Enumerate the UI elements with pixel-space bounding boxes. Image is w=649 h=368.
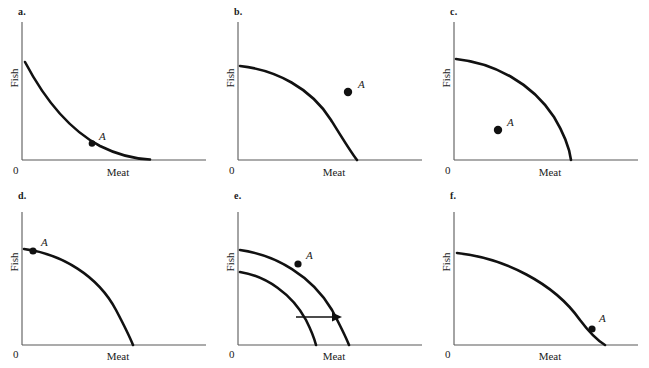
panel-d: d. A Fish Meat 0	[0, 184, 215, 368]
x-axis-label: Meat	[510, 166, 590, 178]
point-a-label: A	[41, 236, 48, 248]
panel-f: f. A Fish Meat 0	[432, 184, 647, 368]
panel-d-plot	[0, 184, 215, 368]
origin-label: 0	[13, 348, 19, 360]
origin-label: 0	[229, 164, 235, 176]
origin-label: 0	[445, 348, 451, 360]
panel-a: a. A Fish Meat 0	[0, 0, 215, 184]
origin-label: 0	[13, 164, 19, 176]
panel-f-plot	[432, 184, 647, 368]
ppf-curve	[25, 62, 150, 160]
y-axis-label: Fish	[224, 56, 236, 100]
point-a-dot	[344, 88, 352, 96]
ppf-curve-original	[240, 272, 316, 345]
point-a-label: A	[599, 312, 606, 324]
panel-b-plot	[216, 0, 431, 184]
panel-a-plot	[0, 0, 215, 184]
ppf-curve	[457, 253, 605, 345]
panel-e: e. A Fish Meat 0	[216, 184, 431, 368]
panel-e-plot	[216, 184, 431, 368]
y-axis-label: Fish	[224, 240, 236, 284]
point-a-label: A	[99, 130, 106, 142]
panel-c: c. A Fish Meat 0	[432, 0, 647, 184]
x-axis-label: Meat	[510, 350, 590, 362]
x-axis-label: Meat	[294, 350, 374, 362]
ppf-curve	[24, 249, 133, 345]
x-axis-label: Meat	[78, 350, 158, 362]
point-a-dot	[588, 325, 595, 332]
point-a-label: A	[358, 78, 365, 90]
x-axis-label: Meat	[78, 166, 158, 178]
y-axis-label: Fish	[440, 240, 452, 284]
ppf-curve	[240, 66, 357, 160]
point-a-dot	[29, 247, 36, 254]
point-a-label: A	[507, 116, 514, 128]
y-axis-label: Fish	[8, 240, 20, 284]
origin-label: 0	[445, 164, 451, 176]
panel-c-plot	[432, 0, 647, 184]
panel-b: b. A Fish Meat 0	[216, 0, 431, 184]
ppf-curve	[456, 59, 571, 160]
y-axis-label: Fish	[8, 56, 20, 100]
point-a-dot	[89, 140, 96, 147]
x-axis-label: Meat	[294, 166, 374, 178]
point-a-dot	[494, 126, 502, 134]
figure-panel-grid: a. A Fish Meat 0 b. A Fish Meat 0 c.	[0, 0, 649, 368]
y-axis-label: Fish	[440, 56, 452, 100]
point-a-label: A	[306, 249, 313, 261]
origin-label: 0	[229, 348, 235, 360]
point-a-dot	[294, 260, 301, 267]
